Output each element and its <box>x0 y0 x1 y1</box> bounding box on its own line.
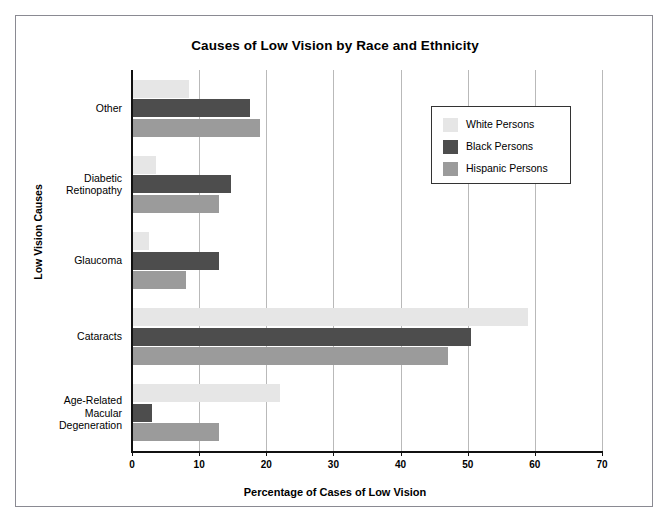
bar <box>132 404 152 422</box>
bar <box>132 195 219 213</box>
x-axis-tick <box>535 451 536 456</box>
x-axis-tick <box>266 451 267 456</box>
bar <box>132 232 149 250</box>
x-axis-tick-label: 0 <box>129 459 135 470</box>
x-axis-tick-label: 70 <box>596 459 607 470</box>
y-axis-category-label-line: Other <box>16 102 122 115</box>
bar <box>132 384 280 402</box>
x-axis-tick-label: 20 <box>261 459 272 470</box>
y-axis-category-label: Other <box>16 102 122 115</box>
bar <box>132 308 528 326</box>
chart-title: Causes of Low Vision by Race and Ethnici… <box>16 38 654 53</box>
bar <box>132 271 186 289</box>
x-axis-tick-label: 30 <box>328 459 339 470</box>
y-axis-category-label: Glaucoma <box>16 254 122 267</box>
y-axis-category-label-line: Retinopathy <box>16 184 122 197</box>
y-axis-category-label: Age-RelatedMacularDegeneration <box>16 394 122 432</box>
y-axis-category-label: DiabeticRetinopathy <box>16 172 122 197</box>
y-axis-category-label-line: Macular <box>16 407 122 420</box>
x-axis-tick <box>602 451 603 456</box>
x-axis-tick-label: 10 <box>194 459 205 470</box>
legend-item-label: Black Persons <box>466 140 533 152</box>
x-axis-tick-label: 40 <box>395 459 406 470</box>
y-axis-category-label-line: Cataracts <box>16 330 122 343</box>
y-axis-category-label: Cataracts <box>16 330 122 343</box>
bar <box>132 175 231 193</box>
chart-frame: Causes of Low Vision by Race and Ethnici… <box>15 15 653 507</box>
legend-item-label: Hispanic Persons <box>466 162 548 174</box>
bar <box>132 423 219 441</box>
bar <box>132 80 189 98</box>
bar <box>132 328 471 346</box>
x-axis-line <box>131 451 603 453</box>
x-gridline <box>602 70 603 451</box>
legend-swatch-icon <box>443 118 458 132</box>
x-axis-tick-label: 50 <box>462 459 473 470</box>
x-gridline <box>333 70 334 451</box>
x-axis-tick <box>132 451 133 456</box>
bar <box>132 156 156 174</box>
y-axis-category-label-line: Diabetic <box>16 172 122 185</box>
x-axis-tick <box>468 451 469 456</box>
chart-legend: White PersonsBlack PersonsHispanic Perso… <box>431 106 571 184</box>
bar <box>132 99 250 117</box>
y-axis-line <box>131 70 133 453</box>
y-axis-category-label-line: Degeneration <box>16 419 122 432</box>
x-axis-tick <box>199 451 200 456</box>
bar <box>132 347 448 365</box>
legend-swatch-icon <box>443 140 458 154</box>
x-axis-tick-label: 60 <box>529 459 540 470</box>
x-axis-tick <box>333 451 334 456</box>
bar <box>132 252 219 270</box>
bar <box>132 119 260 137</box>
x-axis-tick <box>401 451 402 456</box>
x-axis-title: Percentage of Cases of Low Vision <box>16 486 654 498</box>
y-axis-category-label-line: Glaucoma <box>16 254 122 267</box>
legend-item-label: White Persons <box>466 118 534 130</box>
legend-swatch-icon <box>443 162 458 176</box>
x-gridline <box>401 70 402 451</box>
y-axis-category-label-line: Age-Related <box>16 394 122 407</box>
